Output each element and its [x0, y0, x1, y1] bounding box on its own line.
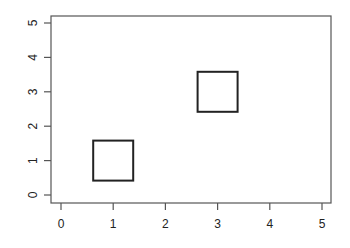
x-tick-label: 1 — [110, 217, 117, 231]
y-tick-label: 0 — [26, 191, 40, 198]
square-marker — [198, 72, 238, 112]
y-tick-label: 5 — [26, 19, 40, 26]
y-tick-label: 4 — [26, 54, 40, 61]
y-tick-label: 2 — [26, 123, 40, 130]
data-markers — [93, 72, 237, 181]
x-tick-label: 4 — [266, 217, 273, 231]
x-axis: 012345 — [58, 203, 326, 231]
y-tick-label: 3 — [26, 88, 40, 95]
scatter-chart: 012345 012345 — [0, 0, 350, 248]
x-tick-label: 2 — [162, 217, 169, 231]
square-marker — [93, 141, 133, 181]
x-tick-label: 5 — [319, 217, 326, 231]
x-tick-label: 3 — [214, 217, 221, 231]
y-tick-label: 1 — [26, 157, 40, 164]
y-axis: 012345 — [26, 19, 51, 198]
x-tick-label: 0 — [58, 217, 65, 231]
